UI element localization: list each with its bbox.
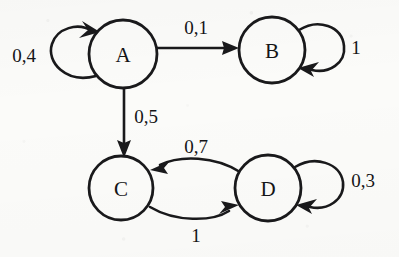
state-machine-svg: A B C D 0,4 0,1 1 0,5 0,7 1 0,3 bbox=[0, 0, 399, 257]
node-a-label: A bbox=[115, 43, 131, 67]
node-b[interactable]: B bbox=[239, 17, 305, 83]
edge-label-a-to-b: 0,1 bbox=[184, 17, 208, 38]
edge-a-to-c bbox=[117, 88, 131, 158]
edge-label-c-to-d: 1 bbox=[191, 225, 201, 246]
edge-c-to-d-path bbox=[150, 207, 229, 219]
node-b-label: B bbox=[265, 39, 279, 63]
node-c[interactable]: C bbox=[89, 156, 153, 220]
edge-a-to-b-arrowhead bbox=[222, 41, 239, 55]
edge-c-to-d bbox=[150, 201, 239, 219]
node-d-label: D bbox=[260, 177, 275, 201]
edge-d-to-c-arrowhead bbox=[150, 161, 170, 174]
edge-label-d-self: 0,3 bbox=[351, 170, 375, 191]
edge-label-d-to-c: 0,7 bbox=[184, 136, 208, 157]
edge-label-b-self: 1 bbox=[351, 37, 361, 58]
node-d[interactable]: D bbox=[235, 155, 301, 221]
node-a[interactable]: A bbox=[89, 20, 157, 88]
edge-d-to-c-path bbox=[160, 159, 240, 172]
state-diagram-canvas: A B C D 0,4 0,1 1 0,5 0,7 1 0,3 bbox=[0, 0, 399, 257]
node-c-label: C bbox=[114, 177, 128, 201]
edge-a-to-b bbox=[157, 41, 239, 55]
edge-d-to-c bbox=[150, 159, 240, 174]
edge-label-a-self: 0,4 bbox=[12, 45, 36, 66]
edge-label-a-to-c: 0,5 bbox=[134, 106, 158, 127]
